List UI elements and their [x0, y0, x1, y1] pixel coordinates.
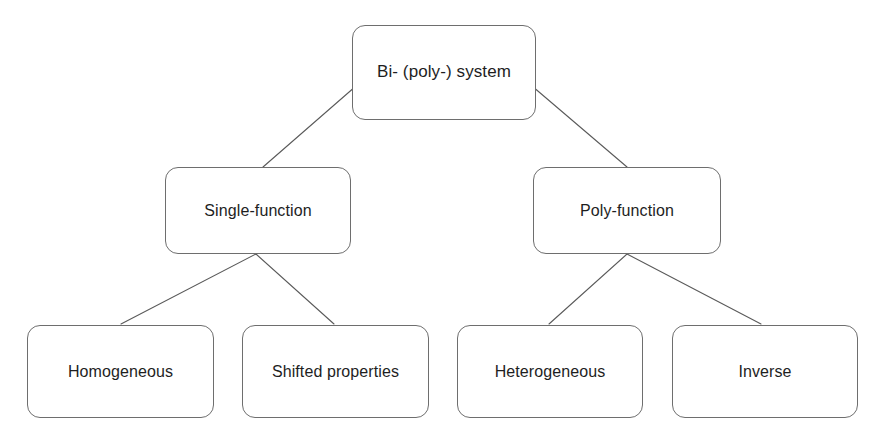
- root-to-poly-function: [532, 86, 627, 167]
- single-function-to-shifted-properties: [256, 254, 334, 324]
- hierarchy-diagram: Bi- (poly-) system Single-function Poly-…: [0, 0, 883, 439]
- single-function-to-homogeneous: [121, 254, 256, 324]
- node-bi-poly-system[interactable]: Bi- (poly-) system: [352, 25, 536, 120]
- node-bi-poly-system-label: Bi- (poly-) system: [371, 62, 517, 82]
- root-to-single-function: [263, 86, 356, 167]
- node-homogeneous[interactable]: Homogeneous: [27, 325, 214, 418]
- node-homogeneous-label: Homogeneous: [62, 362, 179, 381]
- node-inverse[interactable]: Inverse: [672, 325, 858, 418]
- node-poly-function-label: Poly-function: [574, 201, 680, 220]
- node-single-function-label: Single-function: [198, 201, 317, 220]
- node-heterogeneous-label: Heterogeneous: [489, 362, 612, 381]
- node-poly-function[interactable]: Poly-function: [533, 167, 721, 254]
- poly-function-to-heterogeneous: [549, 254, 627, 324]
- node-single-function[interactable]: Single-function: [165, 167, 351, 254]
- node-heterogeneous[interactable]: Heterogeneous: [457, 325, 643, 418]
- node-inverse-label: Inverse: [732, 362, 797, 381]
- node-shifted-properties[interactable]: Shifted properties: [242, 325, 429, 418]
- node-shifted-properties-label: Shifted properties: [266, 362, 405, 381]
- poly-function-to-inverse: [627, 254, 761, 324]
